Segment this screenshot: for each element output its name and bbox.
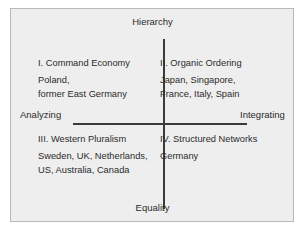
axis-label-equality: Equality	[0, 203, 305, 213]
quadrant-lower-right: IV. Structured Networks Germany	[160, 132, 257, 163]
quadrant-title: III. Western Pluralism	[38, 132, 148, 146]
quadrant-item: Japan, Singapore,	[160, 73, 242, 87]
quadrant-item: US, Australia, Canada	[38, 163, 148, 177]
quadrant-lower-left: III. Western Pluralism Sweden, UK, Nethe…	[38, 132, 148, 177]
quadrant-upper-left: I. Command Economy Poland, former East G…	[38, 56, 130, 101]
quadrant-item: former East Germany	[38, 87, 130, 101]
quadrant-diagram-figure: Hierarchy Equality Analyzing Integrating…	[0, 0, 305, 232]
axis-label-analyzing: Analyzing	[20, 110, 61, 120]
quadrant-item: France, Italy, Spain	[160, 87, 242, 101]
axis-label-integrating: Integrating	[240, 110, 285, 120]
horizontal-axis-line	[73, 123, 247, 125]
quadrant-item: Sweden, UK, Netherlands,	[38, 149, 148, 163]
quadrant-title: II. Organic Ordering	[160, 56, 242, 70]
axis-label-hierarchy: Hierarchy	[0, 17, 305, 27]
quadrant-item: Poland,	[38, 73, 130, 87]
quadrant-item: Germany	[160, 149, 257, 163]
quadrant-upper-right: II. Organic Ordering Japan, Singapore, F…	[160, 56, 242, 101]
quadrant-title: IV. Structured Networks	[160, 132, 257, 146]
quadrant-title: I. Command Economy	[38, 56, 130, 70]
